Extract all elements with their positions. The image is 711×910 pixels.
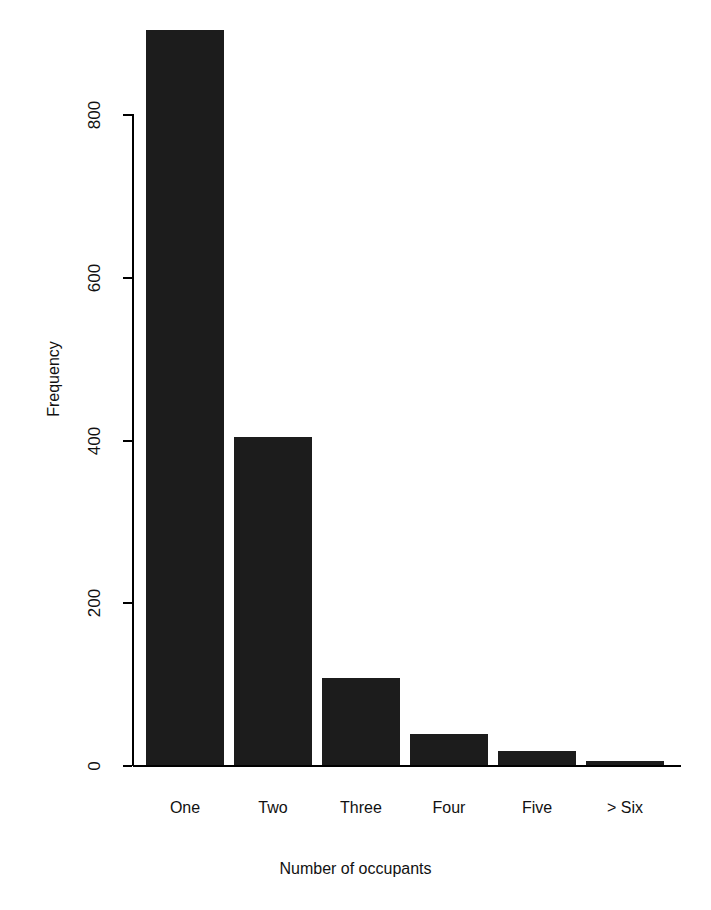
y-tick-mark-0: [123, 765, 132, 767]
bar-chart-figure: 0 200 400 600 800 Frequency One Two Thre…: [0, 0, 711, 910]
x-tick-label-three: Three: [321, 799, 401, 817]
x-tick-label-two: Two: [233, 799, 313, 817]
y-axis-title: Frequency: [45, 319, 63, 439]
x-tick-label-five: Five: [497, 799, 577, 817]
y-tick-label-0: 0: [85, 743, 105, 789]
y-tick-mark-200: [123, 602, 132, 604]
x-tick-label-greater-six: > Six: [585, 799, 665, 817]
x-axis-title: Number of occupants: [0, 860, 711, 878]
y-tick-mark-800: [123, 114, 132, 116]
plot-area: 0 200 400 600 800 Frequency One Two Thre…: [0, 0, 711, 910]
y-tick-label-400: 400: [85, 418, 105, 464]
x-tick-label-four: Four: [409, 799, 489, 817]
x-axis-line: [133, 765, 681, 767]
y-axis-line: [132, 114, 134, 766]
y-tick-mark-400: [123, 440, 132, 442]
y-tick-label-600: 600: [85, 255, 105, 301]
bar-one: [146, 30, 224, 766]
y-tick-label-200: 200: [85, 580, 105, 626]
y-tick-mark-600: [123, 277, 132, 279]
x-tick-label-one: One: [145, 799, 225, 817]
bar-four: [410, 734, 488, 766]
bar-three: [322, 678, 400, 766]
bar-two: [234, 437, 312, 766]
y-tick-label-800: 800: [85, 92, 105, 138]
bar-five: [498, 751, 576, 766]
